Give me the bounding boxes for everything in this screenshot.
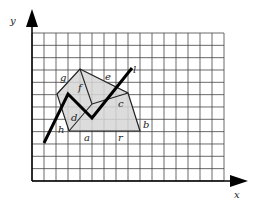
diagram-canvas: x y gfelcdhbar	[0, 0, 263, 208]
label-l: l	[133, 64, 136, 75]
y-axis-label: y	[9, 15, 16, 26]
label-a: a	[84, 132, 90, 143]
label-b: b	[143, 119, 149, 130]
label-d: d	[71, 112, 77, 123]
label-r: r	[118, 132, 124, 143]
x-axis-arrow-icon	[230, 175, 248, 187]
label-e: e	[105, 71, 111, 82]
y-axis-arrow-icon	[26, 9, 38, 27]
label-h: h	[58, 124, 64, 135]
label-g: g	[60, 72, 66, 83]
label-c: c	[118, 98, 124, 109]
shaded-polygon	[57, 69, 140, 131]
x-axis-label: x	[234, 189, 240, 200]
